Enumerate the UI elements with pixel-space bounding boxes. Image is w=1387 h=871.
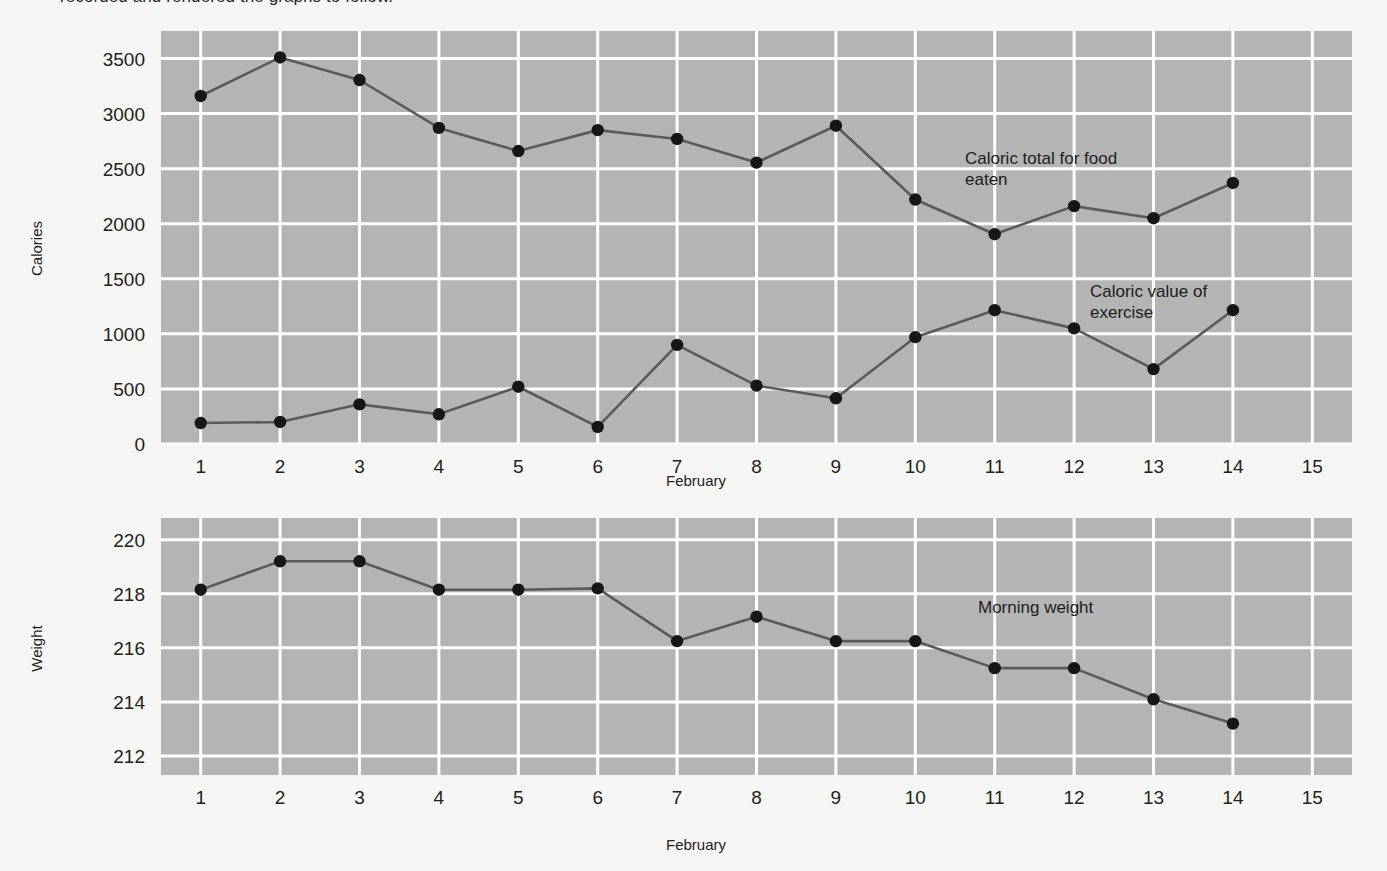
data-point-marker — [1147, 693, 1159, 705]
x-tick-label: 11 — [965, 788, 1025, 807]
y-tick-label: 220 — [33, 531, 145, 550]
x-tick-label: 15 — [1282, 788, 1342, 807]
data-point-marker — [353, 555, 365, 567]
x-tick-label: 2 — [250, 788, 310, 807]
y-tick-label: 212 — [33, 747, 145, 766]
y-tick-label: 218 — [33, 585, 145, 604]
x-tick-label: 4 — [409, 788, 469, 807]
chart-page: recorded and rendered the graphs to foll… — [0, 0, 1387, 871]
data-point-marker — [1227, 717, 1239, 729]
data-point-marker — [1068, 662, 1080, 674]
x-tick-label: 10 — [885, 788, 945, 807]
data-point-marker — [750, 611, 762, 623]
series-line — [201, 561, 1233, 723]
data-point-marker — [433, 583, 445, 595]
x-tick-label: 12 — [1044, 788, 1104, 807]
weight-svg — [161, 518, 1352, 775]
data-point-marker — [830, 635, 842, 647]
weight-chart: Weight 212214216218220 12345678910111213… — [0, 0, 1387, 871]
x-tick-label: 6 — [568, 788, 628, 807]
x-tick-label: 3 — [330, 788, 390, 807]
data-point-marker — [671, 635, 683, 647]
x-tick-label: 13 — [1124, 788, 1184, 807]
weight-morning-annotation: Morning weight — [978, 597, 1093, 618]
x-tick-label: 8 — [727, 788, 787, 807]
data-point-marker — [909, 635, 921, 647]
x-tick-label: 5 — [488, 788, 548, 807]
x-tick-label: 7 — [647, 788, 707, 807]
x-tick-label: 9 — [806, 788, 866, 807]
y-tick-label: 216 — [33, 639, 145, 658]
data-point-marker — [195, 583, 207, 595]
x-tick-label: 1 — [171, 788, 231, 807]
data-point-marker — [989, 662, 1001, 674]
y-tick-label: 214 — [33, 693, 145, 712]
weight-x-axis-label: February — [616, 836, 776, 853]
data-point-marker — [274, 555, 286, 567]
data-point-marker — [592, 582, 604, 594]
data-point-marker — [512, 583, 524, 595]
x-tick-label: 14 — [1203, 788, 1263, 807]
